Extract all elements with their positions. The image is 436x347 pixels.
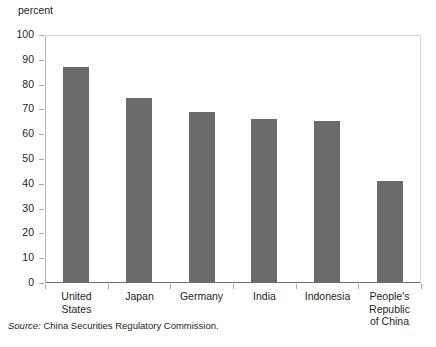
y-axis-tick-label: 50	[0, 153, 34, 164]
y-axis-tick-label: 70	[0, 103, 34, 114]
y-axis-tick-mark	[39, 209, 44, 210]
bar	[377, 181, 403, 283]
x-axis-tick-mark	[233, 284, 234, 289]
y-axis-tick-mark	[39, 159, 44, 160]
y-axis-tick-label: 90	[0, 54, 34, 65]
x-axis-label-line: India	[233, 290, 296, 303]
x-axis-tick-mark	[421, 284, 422, 289]
source-text: China Securities Regulatory Commission.	[43, 320, 218, 331]
y-axis-tick-label: 30	[0, 203, 34, 214]
x-axis-label-line: Japan	[108, 290, 171, 303]
x-axis-label: Germany	[170, 290, 233, 303]
x-axis-label: Japan	[108, 290, 171, 303]
x-axis-label-line: People's	[358, 290, 421, 303]
x-axis-label-line: Republic	[358, 303, 421, 316]
source-note: Source: China Securities Regulatory Comm…	[8, 320, 219, 332]
y-axis-tick-label: 10	[0, 252, 34, 263]
x-axis-tick-mark	[170, 284, 171, 289]
y-axis-tick-mark	[39, 35, 44, 36]
y-axis-tick-label: 60	[0, 128, 34, 139]
y-axis-tick-mark	[39, 184, 44, 185]
y-axis-tick-mark	[39, 233, 44, 234]
x-axis-tick-mark	[358, 284, 359, 289]
y-axis: 0102030405060708090100	[0, 0, 46, 347]
x-axis-label: People'sRepublicof China	[358, 290, 421, 328]
y-axis-tick-mark	[39, 109, 44, 110]
bar	[251, 119, 277, 283]
plot-area	[45, 35, 421, 283]
y-axis-tick-label: 40	[0, 178, 34, 189]
y-axis-tick-mark	[39, 134, 44, 135]
y-axis-tick-mark	[39, 283, 44, 284]
y-axis-tick-label: 80	[0, 79, 34, 90]
bar	[126, 98, 152, 283]
x-axis-label-line: Germany	[170, 290, 233, 303]
bar	[314, 121, 340, 283]
y-axis-tick-label: 0	[0, 277, 34, 288]
x-axis-tick-mark	[108, 284, 109, 289]
y-axis-tick-label: 20	[0, 227, 34, 238]
bar-chart-figure: percent 0102030405060708090100 United St…	[0, 0, 436, 347]
y-axis-tick-label: 100	[0, 29, 34, 40]
bar	[189, 112, 215, 283]
x-axis-label-line: Indonesia	[296, 290, 359, 303]
x-axis-tick-mark	[296, 284, 297, 289]
source-label: Source:	[8, 320, 41, 331]
x-axis-tick-mark	[45, 284, 46, 289]
x-axis-label: Indonesia	[296, 290, 359, 303]
x-axis-label: United States	[45, 290, 108, 315]
bar	[63, 67, 89, 283]
y-axis-tick-mark	[39, 258, 44, 259]
x-axis-label: India	[233, 290, 296, 303]
x-axis-label-line: of China	[358, 315, 421, 328]
y-axis-tick-mark	[39, 85, 44, 86]
x-axis-label-line: United States	[45, 290, 108, 315]
y-axis-tick-mark	[39, 60, 44, 61]
